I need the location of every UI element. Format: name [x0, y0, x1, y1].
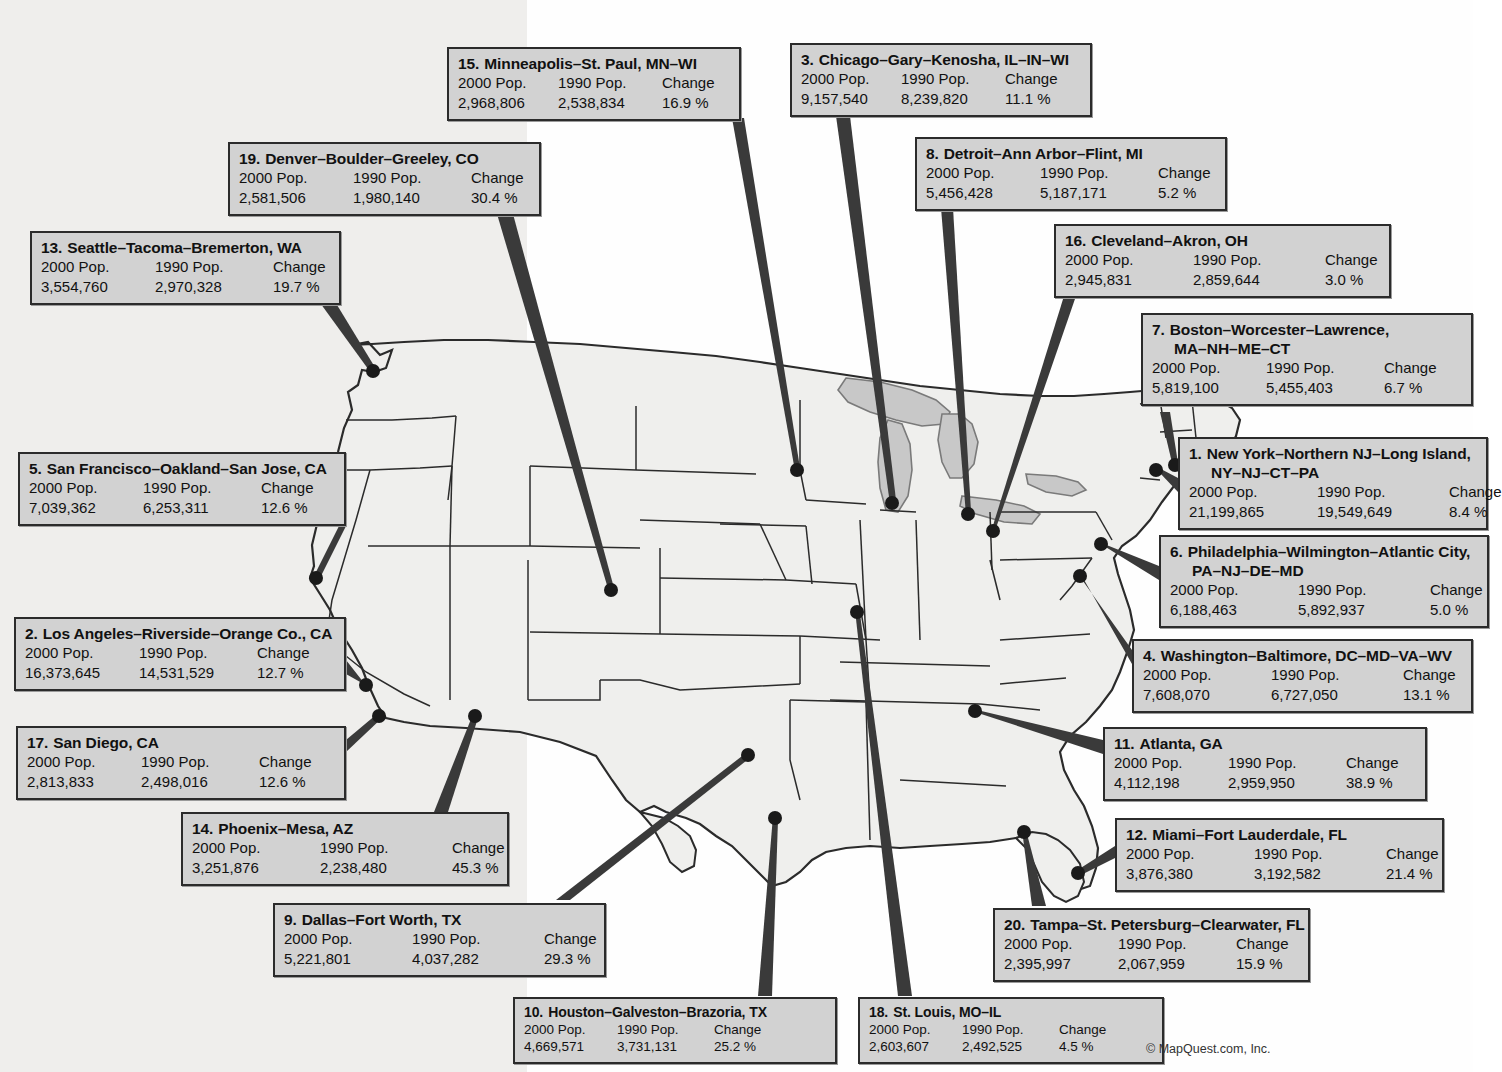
callout-tampa[interactable]: 20.Tampa–St. Petersburg–Clearwater, FL20…	[993, 908, 1310, 982]
callout-value-row-philadelphia: 6,188,4635,892,9375.0 %	[1170, 600, 1478, 620]
callout-sanfrancisco[interactable]: 5.San Francisco–Oakland–San Jose, CA2000…	[18, 452, 346, 526]
callout-minneapolis[interactable]: 15.Minneapolis–St. Paul, MN–WI2000 Pop.1…	[447, 47, 741, 121]
city-dot-minneapolis[interactable]	[790, 463, 804, 477]
city-dot-sandiego[interactable]	[372, 709, 386, 723]
value-change-tampa: 15.9 %	[1236, 954, 1283, 974]
callout-header-row-tampa: 2000 Pop.1990 Pop.Change	[1004, 934, 1299, 954]
value-change-dallas: 29.3 %	[544, 949, 591, 969]
col-head-pop1990-tampa: 1990 Pop.	[1118, 934, 1236, 954]
callout-cleveland[interactable]: 16.Cleveland–Akron, OH2000 Pop.1990 Pop.…	[1054, 224, 1391, 298]
value-change-detroit: 5.2 %	[1158, 183, 1196, 203]
value-pop2000-seattle: 3,554,760	[41, 277, 155, 297]
callout-value-row-chicago: 9,157,5408,239,82011.1 %	[801, 89, 1081, 109]
callout-title-newyork: 1.New York–Northern NJ–Long Island,	[1189, 444, 1477, 463]
col-head-change-houston: Change	[714, 1021, 761, 1038]
callout-value-row-cleveland: 2,945,8312,859,6443.0 %	[1065, 270, 1380, 290]
callout-header-row-cleveland: 2000 Pop.1990 Pop.Change	[1065, 250, 1380, 270]
callout-boston[interactable]: 7.Boston–Worcester–Lawrence,MA–NH–ME–CT2…	[1141, 313, 1473, 406]
city-dot-stlouis[interactable]	[850, 605, 864, 619]
city-dot-washington[interactable]	[1073, 569, 1087, 583]
callout-detroit[interactable]: 8.Detroit–Ann Arbor–Flint, MI2000 Pop.19…	[915, 137, 1227, 211]
value-change-philadelphia: 5.0 %	[1430, 600, 1468, 620]
callout-seattle[interactable]: 13.Seattle–Tacoma–Bremerton, WA2000 Pop.…	[30, 231, 341, 305]
callout-title-losangeles: 2.Los Angeles–Riverside–Orange Co., CA	[25, 624, 335, 643]
callout-title-boston: 7.Boston–Worcester–Lawrence,	[1152, 320, 1462, 339]
callout-header-row-boston: 2000 Pop.1990 Pop.Change	[1152, 358, 1462, 378]
callout-sandiego[interactable]: 17.San Diego, CA2000 Pop.1990 Pop.Change…	[16, 726, 346, 800]
col-head-pop1990-losangeles: 1990 Pop.	[139, 643, 257, 663]
callout-rank-sandiego: 17.	[27, 734, 48, 751]
callout-value-row-washington: 7,608,0706,727,05013.1 %	[1143, 685, 1462, 705]
callout-philadelphia[interactable]: 6.Philadelphia–Wilmington–Atlantic City,…	[1159, 535, 1489, 628]
city-dot-denver[interactable]	[604, 583, 618, 597]
callout-houston[interactable]: 10.Houston–Galveston–Brazoria, TX2000 Po…	[513, 997, 837, 1064]
callout-washington[interactable]: 4.Washington–Baltimore, DC–MD–VA–WV2000 …	[1132, 639, 1473, 713]
callout-dallas[interactable]: 9.Dallas–Fort Worth, TX2000 Pop.1990 Pop…	[273, 903, 606, 977]
callout-rank-atlanta: 11.	[1114, 735, 1134, 752]
callout-name-detroit: Detroit–Ann Arbor–Flint, MI	[944, 145, 1143, 162]
callout-title-atlanta: 11.Atlanta, GA	[1114, 734, 1416, 753]
col-head-change-detroit: Change	[1158, 163, 1211, 183]
value-change-cleveland: 3.0 %	[1325, 270, 1363, 290]
col-head-change-atlanta: Change	[1346, 753, 1399, 773]
callout-phoenix[interactable]: 14.Phoenix–Mesa, AZ2000 Pop.1990 Pop.Cha…	[181, 812, 509, 886]
col-head-pop1990-boston: 1990 Pop.	[1266, 358, 1384, 378]
value-change-stlouis: 4.5 %	[1059, 1038, 1094, 1055]
value-change-newyork: 8.4 %	[1449, 502, 1487, 522]
value-pop2000-minneapolis: 2,968,806	[458, 93, 558, 113]
callout-name-boston: Boston–Worcester–Lawrence,	[1170, 321, 1389, 338]
callout-header-row-newyork: 2000 Pop.1990 Pop.Change	[1189, 482, 1477, 502]
col-head-pop1990-detroit: 1990 Pop.	[1040, 163, 1158, 183]
callout-header-row-sanfrancisco: 2000 Pop.1990 Pop.Change	[29, 478, 335, 498]
col-head-pop2000-philadelphia: 2000 Pop.	[1170, 580, 1298, 600]
city-dot-dallas[interactable]	[741, 748, 755, 762]
value-pop1990-miami: 3,192,582	[1254, 864, 1386, 884]
col-head-pop1990-philadelphia: 1990 Pop.	[1298, 580, 1430, 600]
callout-rank-phoenix: 14.	[192, 820, 213, 837]
callout-rank-seattle: 13.	[41, 239, 62, 256]
city-dot-newyork[interactable]	[1149, 463, 1163, 477]
value-change-sanfrancisco: 12.6 %	[261, 498, 308, 518]
col-head-pop2000-seattle: 2000 Pop.	[41, 257, 155, 277]
city-dot-detroit[interactable]	[961, 507, 975, 521]
callout-title-miami: 12.Miami–Fort Lauderdale, FL	[1126, 825, 1433, 844]
city-dot-phoenix[interactable]	[468, 709, 482, 723]
callout-chicago[interactable]: 3.Chicago–Gary–Kenosha, IL–IN–WI2000 Pop…	[790, 43, 1092, 117]
value-pop1990-atlanta: 2,959,950	[1228, 773, 1346, 793]
callout-value-row-houston: 4,669,5713,731,13125.2 %	[524, 1038, 826, 1055]
callout-header-row-sandiego: 2000 Pop.1990 Pop.Change	[27, 752, 335, 772]
value-pop2000-philadelphia: 6,188,463	[1170, 600, 1298, 620]
col-head-pop1990-dallas: 1990 Pop.	[412, 929, 544, 949]
col-head-change-cleveland: Change	[1325, 250, 1378, 270]
city-dot-sanfrancisco[interactable]	[309, 571, 323, 585]
value-pop2000-dallas: 5,221,801	[284, 949, 412, 969]
callout-atlanta[interactable]: 11.Atlanta, GA2000 Pop.1990 Pop.Change4,…	[1103, 727, 1427, 801]
city-dot-losangeles[interactable]	[359, 678, 373, 692]
value-change-phoenix: 45.3 %	[452, 858, 499, 878]
callout-name2-boston: MA–NH–ME–CT	[1152, 339, 1462, 358]
value-pop1990-chicago: 8,239,820	[901, 89, 1005, 109]
city-dot-seattle[interactable]	[366, 364, 380, 378]
city-dot-cleveland[interactable]	[986, 524, 1000, 538]
city-dot-tampa[interactable]	[1017, 825, 1031, 839]
callout-losangeles[interactable]: 2.Los Angeles–Riverside–Orange Co., CA20…	[14, 617, 346, 691]
col-head-pop1990-minneapolis: 1990 Pop.	[558, 73, 662, 93]
col-head-pop2000-sanfrancisco: 2000 Pop.	[29, 478, 143, 498]
col-head-change-newyork: Change	[1449, 482, 1502, 502]
city-dot-philadelphia[interactable]	[1094, 537, 1108, 551]
col-head-pop1990-newyork: 1990 Pop.	[1317, 482, 1449, 502]
callout-stlouis[interactable]: 18.St. Louis, MO–IL2000 Pop.1990 Pop.Cha…	[858, 997, 1164, 1064]
callout-miami[interactable]: 12.Miami–Fort Lauderdale, FL2000 Pop.199…	[1115, 818, 1444, 892]
callout-header-row-philadelphia: 2000 Pop.1990 Pop.Change	[1170, 580, 1478, 600]
col-head-change-stlouis: Change	[1059, 1021, 1106, 1038]
col-head-pop1990-sandiego: 1990 Pop.	[141, 752, 259, 772]
col-head-pop2000-washington: 2000 Pop.	[1143, 665, 1271, 685]
col-head-pop2000-minneapolis: 2000 Pop.	[458, 73, 558, 93]
city-dot-miami[interactable]	[1071, 866, 1085, 880]
city-dot-chicago[interactable]	[885, 496, 899, 510]
callout-denver[interactable]: 19.Denver–Boulder–Greeley, CO2000 Pop.19…	[228, 142, 541, 216]
city-dot-houston[interactable]	[768, 811, 782, 825]
value-pop2000-boston: 5,819,100	[1152, 378, 1266, 398]
callout-newyork[interactable]: 1.New York–Northern NJ–Long Island,NY–NJ…	[1178, 437, 1488, 530]
city-dot-atlanta[interactable]	[968, 704, 982, 718]
